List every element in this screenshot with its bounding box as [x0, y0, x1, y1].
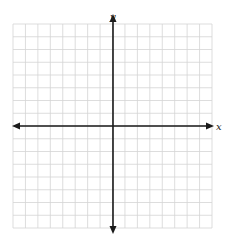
- x-axis-right-arrow-icon: [206, 123, 214, 130]
- coordinate-grid: x y: [0, 0, 228, 244]
- y-axis-label: y: [109, 11, 116, 22]
- axes: [12, 14, 214, 234]
- y-axis-down-arrow-icon: [110, 226, 117, 234]
- x-axis-label: x: [216, 121, 222, 132]
